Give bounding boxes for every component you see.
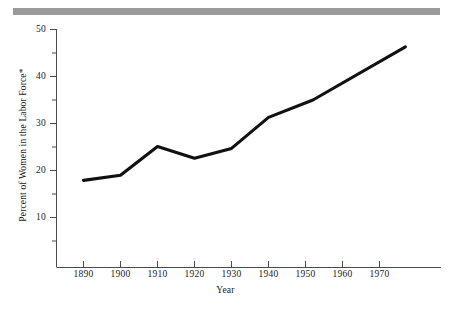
x-tick-label-1900: 1900: [101, 269, 141, 279]
data-series-line: [84, 47, 406, 180]
x-tick-label-1890: 1890: [64, 269, 104, 279]
y-axis-title: Percent of Women in the Labor Force*: [18, 50, 28, 240]
x-tick-label-1960: 1960: [323, 269, 363, 279]
y-axis-major-ticks: [50, 30, 57, 218]
y-axis-minor-ticks: [52, 53, 57, 241]
x-tick-label-1930: 1930: [212, 269, 252, 279]
line-chart: 50 40 30 20 10 1890 1900 1910 1920 1930 …: [0, 0, 451, 313]
x-tick-label-1970: 1970: [360, 269, 400, 279]
x-tick-label-1920: 1920: [175, 269, 215, 279]
x-tick-label-1950: 1950: [286, 269, 326, 279]
x-tick-label-1910: 1910: [138, 269, 178, 279]
plot-canvas: [0, 0, 451, 313]
x-axis-title: Year: [0, 285, 451, 295]
chart-page: 50 40 30 20 10 1890 1900 1910 1920 1930 …: [0, 0, 451, 313]
x-tick-label-1940: 1940: [249, 269, 289, 279]
x-axis-ticks: [84, 261, 380, 268]
y-tick-label-50: 50: [24, 24, 46, 34]
